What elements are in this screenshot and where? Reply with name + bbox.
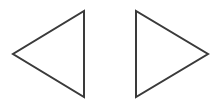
shape-canvas <box>0 0 220 105</box>
shapes-svg <box>0 0 220 105</box>
canvas-background <box>0 0 220 105</box>
